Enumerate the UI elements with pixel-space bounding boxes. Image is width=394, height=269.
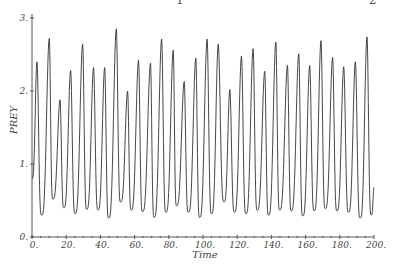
x-tick-label: 180.	[332, 240, 352, 250]
prey-series-line	[32, 29, 374, 218]
x-tick-label: 160.	[298, 240, 318, 250]
y-axis-title: PREY	[8, 105, 19, 136]
x-tick-label: 80.	[164, 240, 178, 250]
x-tick-label: 200.	[365, 240, 386, 250]
y-tick-label: 3.	[19, 13, 28, 23]
x-tick-label: 140.	[263, 240, 283, 250]
prey-time-chart: 1 2 0.1.2.3. 0.20.40.60.80.100.120.140.1…	[0, 0, 394, 269]
y-tick-label: 1.	[19, 159, 28, 169]
x-tick-label: 20.	[60, 240, 75, 250]
x-tick-label: 40.	[94, 240, 109, 250]
y-axis: 0.1.2.3.	[18, 13, 34, 242]
top-fragment-left: 1	[176, 0, 184, 7]
x-axis-title: Time	[192, 249, 217, 260]
y-tick-label: 0.	[19, 232, 28, 242]
x-tick-label: 0.	[30, 240, 39, 250]
x-tick-label: 120.	[229, 240, 249, 250]
y-tick-label: 2.	[18, 86, 28, 96]
x-axis: 0.20.40.60.80.100.120.140.160.180.200.	[30, 235, 386, 250]
top-fragment-right: 2	[369, 0, 377, 7]
x-tick-label: 60.	[129, 240, 143, 250]
